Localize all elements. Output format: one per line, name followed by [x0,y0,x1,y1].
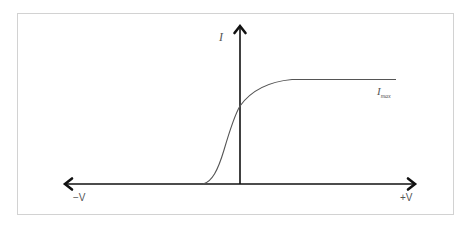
positive-voltage-label: +V [400,193,413,203]
imax-label: Imax [377,86,391,97]
current-axis-label: I [219,31,223,43]
negative-voltage-label: −V [73,193,86,203]
imax-label-subscript: max [381,93,391,99]
iv-diagram [0,0,469,227]
iv-curve [203,80,396,185]
